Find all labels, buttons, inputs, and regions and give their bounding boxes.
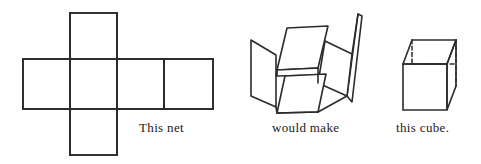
net-diagram: [23, 13, 213, 155]
folding-face-left: [251, 40, 276, 107]
net-squares: [23, 13, 213, 155]
net-square-bottom: [70, 109, 117, 155]
caption-would-make: would make: [272, 120, 339, 136]
folding-face-top-back: [277, 26, 328, 70]
caption-this-net: This net: [139, 120, 184, 136]
net-square-left: [23, 59, 70, 109]
cube-front-face: [403, 64, 447, 110]
net-square-right1: [117, 59, 164, 109]
caption-this-cube: this cube.: [396, 120, 449, 136]
net-square-center: [70, 59, 117, 109]
net-outline: [23, 13, 213, 155]
folding-base-edge-right: [318, 96, 347, 112]
net-square-top: [70, 13, 117, 59]
folding-base-edge-bottom: [277, 112, 318, 113]
cube-hidden-edges: [412, 40, 456, 86]
folding-box-diagram: [251, 14, 362, 113]
cube-right-face: [447, 40, 456, 110]
figure-root: This net would make this cube.: [0, 0, 481, 164]
cube-net-figure: [0, 0, 481, 164]
folding-hinge-left-inner: [276, 70, 277, 76]
folding-base-edge-left: [276, 107, 277, 113]
net-square-right2: [164, 59, 213, 109]
cube-diagram: [403, 40, 456, 110]
